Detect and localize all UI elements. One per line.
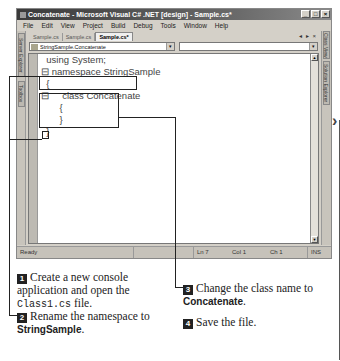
leader-line [9,76,10,139]
leader-line [9,76,39,77]
status-bar: Ready Ln 7 Col 1 Ch 1 INS [17,246,331,258]
step-3: 3Change the class name to Concatenate. [183,282,338,308]
leader-line [119,117,175,118]
step-1: 1Create a new console application and op… [17,271,167,311]
left-dock-rail: Server Explorer Toolbox [17,31,26,245]
document-area: Sample.cs Sample.cs Sample.cs* ◂ ▸ × Str… [28,31,319,244]
navigation-bar: StringSample.Concatenate ▾ ▾ [28,42,319,52]
right-dock-rail: Class View Solution Explorer [321,31,331,245]
close-button[interactable]: × [321,10,330,18]
menu-debug[interactable]: Debug [133,20,152,31]
menu-tools[interactable]: Tools [161,20,176,31]
maximize-button[interactable]: □ [311,10,320,18]
menu-project[interactable]: Project [83,20,103,31]
document-tabs: Sample.cs Sample.cs Sample.cs* ◂ ▸ × [28,31,319,41]
menu-bar: File Edit View Project Build Debug Tools… [17,20,331,31]
leader-line [9,139,10,315]
app-icon [20,12,26,18]
step-number: 1 [17,274,27,284]
menu-build[interactable]: Build [111,20,125,31]
solution-explorer-tab[interactable]: Solution Explorer [323,61,330,105]
menu-view[interactable]: View [61,20,75,31]
server-explorer-tab[interactable]: Server Explorer [18,33,25,77]
class-highlight [39,93,119,128]
status-spacer [133,247,193,258]
step-number: 4 [183,319,193,329]
step-4: 4Save the file. [183,316,333,329]
chevron-down-icon[interactable]: ▾ [166,43,174,50]
title-bar: Concatenate - Microsoft Visual C# .NET [… [17,9,331,20]
minimize-button[interactable]: _ [301,10,310,18]
chevron-right-icon: › [332,112,337,130]
namespace-highlight [39,76,137,90]
window-title: Concatenate - Microsoft Visual C# .NET [… [28,11,232,18]
vs-window: Concatenate - Microsoft Visual C# .NET [… [16,8,332,259]
class-view-tab[interactable]: Class View [323,31,330,59]
scroll-down-icon[interactable]: ▼ [311,236,318,243]
code-line: using System; [41,54,160,66]
menu-help[interactable]: Help [215,20,228,31]
type-combo[interactable]: StringSample.Concatenate ▾ [29,42,175,51]
leader-line [175,117,176,287]
tab-navigation[interactable]: ◂ ▸ × [299,32,317,39]
step-number: 2 [17,313,27,323]
menu-edit[interactable]: Edit [41,20,52,31]
status-ins: INS [307,247,321,258]
toolbox-tab[interactable]: Toolbox [18,81,25,107]
editor-gutter [29,54,38,243]
tab-sample-2[interactable]: Sample.cs [63,33,96,41]
step-number: 3 [183,285,193,295]
scroll-up-icon[interactable]: ▲ [311,54,318,61]
tab-sample-active[interactable]: Sample.cs* [95,32,132,41]
type-combo-value: StringSample.Concatenate [40,44,106,50]
status-ready: Ready [17,247,37,258]
leader-line [9,315,17,316]
tab-sample-1[interactable]: Sample.cs [30,33,63,41]
chevron-down-icon[interactable]: ▾ [309,43,317,50]
menu-file[interactable]: File [23,20,33,31]
status-char: Ch 1 [267,247,283,258]
member-combo[interactable]: ▾ [179,42,318,51]
leader-line [175,287,183,288]
step-2: 2Rename the namespace to StringSample. [17,310,172,336]
vertical-scrollbar[interactable]: ▲ ▼ [310,54,318,243]
brace-highlight [42,131,49,139]
leader-line [9,139,42,140]
status-line: Ln 7 [193,247,209,258]
status-col: Col 1 [229,247,246,258]
class-icon [31,44,38,50]
menu-window[interactable]: Window [184,20,207,31]
